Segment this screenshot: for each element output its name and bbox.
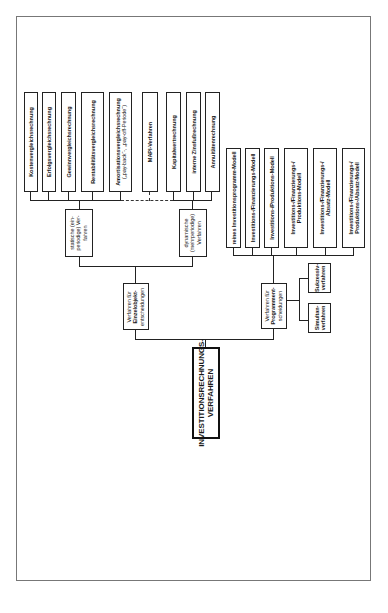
node-label: reines Investitionsprogramm-Modell	[230, 152, 236, 245]
connector-bus	[30, 200, 121, 201]
node-label: Investitions-/Finanzierungs-/ Produktion…	[290, 162, 303, 235]
node-label: Investitions-/Finanzierungs-/ Produktion…	[347, 162, 360, 235]
node-label: Verfahren für Programment- scheidungen	[264, 287, 283, 324]
node-label-line1: dynamische	[183, 219, 189, 248]
node-kostenvergleich: Kostenvergleichsrechnung	[24, 92, 38, 192]
node-label-line1: INVESTITIONSRECHNUNGS-	[197, 339, 206, 447]
node-interne-zinsfussrechnung: interne Zinsfußrechnung	[186, 92, 201, 192]
connector	[135, 266, 136, 283]
node-label-line2: verfahren	[320, 306, 326, 331]
node-rentabilitaetsvergleich: Rentabilitätsvergleichsrechnung	[81, 92, 104, 192]
node-label: INVESTITIONSRECHNUNGS- VERFAHREN	[197, 339, 215, 447]
node-erfolgsvergleich: Erfolgsvergleichsrechnung	[42, 92, 56, 192]
node-amortisationsvergleich: Amortisationsvergleichsrechnung („pay-ba…	[109, 92, 132, 192]
node-label-line2: (mehrperiodige)	[190, 214, 196, 252]
node-label: Simultan- verfahren	[313, 306, 326, 331]
node-label-line2: Programment-	[271, 287, 277, 324]
node-label-line3: fahren	[82, 225, 88, 240]
node-label: Annuitätenrechnung	[209, 116, 215, 169]
node-label-line2: Absatz-Modell	[325, 180, 331, 217]
node-reines-investitionsprogramm-modell: reines Investitionsprogramm-Modell	[226, 148, 241, 248]
node-label-line1: Amortisationsvergleichsrechnung	[114, 98, 120, 186]
connector-bus-dashed	[121, 200, 173, 201]
node-gewinnvergleich: Gewinnvergleichsrechnung	[61, 92, 76, 192]
node-investitions-finanzierungs-modell: Investitions-/Finanzierungs-Modell	[245, 148, 260, 248]
connector-bus	[233, 255, 354, 256]
node-label: Investitions-/Finanzierungs-Modell	[249, 154, 255, 243]
node-label-line2: Produktions-/Absatz-Modell	[354, 162, 360, 233]
node-invest-finanz-absatz-modell: Investitions-/Finanzierungs-/ Absatz-Mod…	[313, 148, 337, 248]
connector	[299, 278, 300, 321]
node-label-line1: Sukzessiv-	[313, 264, 319, 292]
node-mapi-verfahren: MAPI-Verfahren	[142, 92, 158, 192]
node-label-line1: Investitions-/Finanzierungs-/	[347, 162, 353, 235]
node-label: statische (ein- periodige) Ver- fahren	[69, 215, 88, 250]
node-label-line1: Verfahren für	[126, 291, 132, 322]
node-label: MAPI-Verfahren	[147, 122, 153, 162]
node-label-line1: Investitions-/Finanzierungs-/	[319, 162, 325, 235]
node-label: Erfolgsvergleichsrechnung	[46, 107, 52, 177]
node-label-line2: Produktions-Modell	[296, 173, 302, 223]
node-label-line2: Einzelobjekt-	[133, 290, 139, 323]
node-label-line2: verfahren	[320, 266, 326, 291]
node-dynamische-verfahren: dynamische (mehrperiodige) Verfahren	[179, 209, 207, 257]
node-kapitalwertrechnung: Kapitalwertrechnung	[166, 92, 181, 192]
node-label: dynamische (mehrperiodige) Verfahren	[183, 214, 202, 252]
node-invest-finanz-produktions-absatz-modell: Investitions-/Finanzierungs-/ Produktion…	[342, 148, 365, 248]
node-label: Amortisationsvergleichsrechnung („pay-ba…	[114, 98, 127, 186]
connector	[287, 300, 299, 301]
node-label-line1: Verfahren für	[264, 290, 270, 321]
node-label: Kapitalwertrechnung	[170, 115, 176, 169]
node-label: Investitions-/Finanzierungs-/ Absatz-Mod…	[319, 162, 332, 235]
node-einzelobjektentscheidungen: Verfahren für Einzelobjekt- entscheidung…	[123, 283, 149, 330]
node-label-line1: Investitions-/Finanzierungs-/	[290, 162, 296, 235]
node-label: Investitions-/Produktions-Modell	[268, 156, 274, 240]
node-sukzessivverfahren: Sukzessiv- verfahren	[308, 263, 331, 293]
node-investitions-produktions-modell: Investitions-/Produktions-Modell	[264, 148, 279, 248]
node-label-line3: Verfahren	[196, 221, 202, 244]
node-label-line3: scheidungen	[277, 291, 283, 322]
node-label-line3: entscheidungen	[139, 287, 145, 325]
node-label: Verfahren für Einzelobjekt- entscheidung…	[126, 287, 145, 325]
node-annuitaetenrechnung: Annuitätenrechnung	[205, 92, 220, 192]
connector	[273, 255, 274, 283]
node-label-line2: („pay-back“-, „pay-off-Periode“)	[121, 105, 127, 179]
node-programmentscheidungen: Verfahren für Programment- scheidungen	[261, 283, 287, 329]
node-label: Kostenvergleichsrechnung	[28, 107, 34, 177]
node-label-line2: VERFAHREN	[206, 369, 215, 417]
node-label: Rentabilitätsvergleichsrechnung	[89, 100, 95, 184]
node-label: interne Zinsfußrechnung	[190, 110, 196, 174]
node-statische-verfahren: statische (ein- periodige) Ver- fahren	[65, 209, 93, 257]
node-root-investitionsrechnungsverfahren: INVESTITIONSRECHNUNGS- VERFAHREN	[192, 347, 220, 439]
node-simultanverfahren: Simultan- verfahren	[308, 303, 331, 333]
node-label-line1: statische (ein-	[69, 216, 75, 249]
node-label-line1: Simultan-	[313, 306, 319, 331]
node-invest-finanz-produktions-modell: Investitions-/Finanzierungs-/ Produktion…	[284, 148, 308, 248]
node-label: Sukzessiv- verfahren	[313, 264, 326, 292]
node-label: Gewinnvergleichsrechnung	[65, 107, 71, 178]
node-label-line2: periodige) Ver-	[76, 215, 82, 250]
